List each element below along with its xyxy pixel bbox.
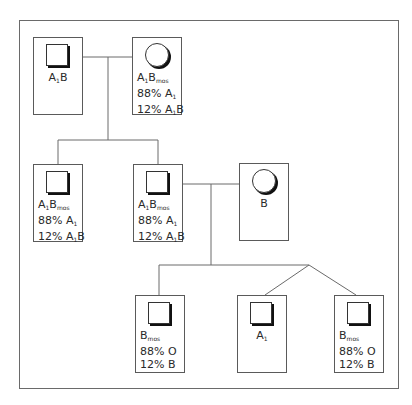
- male-square-icon: [46, 44, 68, 66]
- male-square-icon: [148, 302, 170, 324]
- individual-gen1-male: A1B: [33, 37, 83, 115]
- genotype-label: A1Bmos 88% A1 12% A1B: [34, 198, 82, 246]
- individual-gen3-male-1: Bmos 88% O 12% B: [135, 295, 185, 373]
- male-square-icon: [250, 302, 272, 324]
- genotype-label: Bmos 88% O 12% B: [335, 329, 383, 371]
- female-circle-icon: [145, 43, 169, 67]
- individual-gen2-male-2: A1Bmos 88% A1 12% A1B: [133, 164, 183, 242]
- genotype-label: A1Bmos 88% A1 12% A1B: [134, 198, 182, 246]
- genotype-label: A1: [238, 329, 286, 345]
- genotype-label: B: [240, 197, 288, 210]
- individual-gen2-male-1: A1Bmos 88% A1 12% A1B: [33, 164, 83, 242]
- individual-gen1-female: A1Bmos 88% A1 12% A1B: [132, 37, 182, 115]
- female-circle-icon: [252, 169, 276, 193]
- genotype-label: A1Bmos 88% A1 12% A1B: [133, 71, 181, 119]
- genotype-label: Bmos 88% O 12% B: [136, 329, 184, 371]
- male-square-icon: [146, 171, 168, 193]
- male-square-icon: [46, 171, 68, 193]
- individual-gen3-male-2: A1: [237, 295, 287, 373]
- male-square-icon: [347, 302, 369, 324]
- individual-gen3-male-3: Bmos 88% O 12% B: [334, 295, 384, 373]
- genotype-label: A1B: [34, 71, 82, 87]
- individual-gen2-female-spouse: B: [239, 163, 289, 241]
